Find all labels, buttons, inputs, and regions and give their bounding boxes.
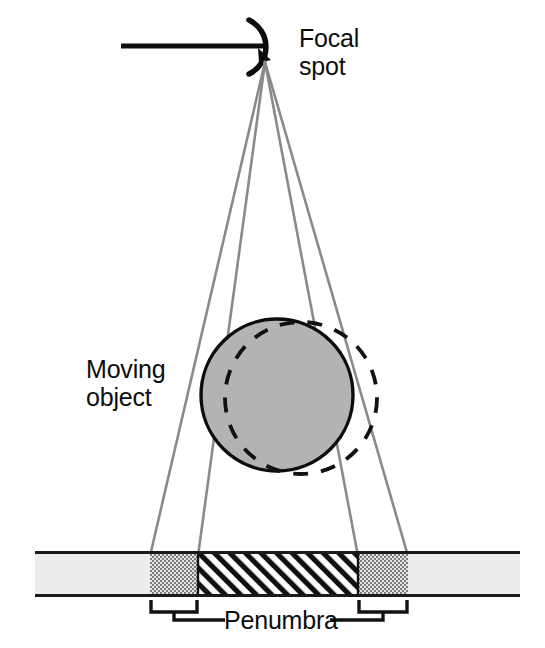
- focal-spot-label: Focal spot: [299, 24, 359, 80]
- ray-bundle: [150, 62, 408, 556]
- penumbra-label: Penumbra: [224, 606, 338, 634]
- bracket-left: [151, 600, 197, 612]
- ray-outer-right: [265, 62, 408, 556]
- umbra-region: [198, 552, 358, 596]
- penumbra-diagram: [0, 0, 545, 648]
- bracket-right: [359, 600, 407, 612]
- moving-object-group: [201, 319, 377, 474]
- focal-spot-source: [121, 20, 271, 74]
- moving-object-label: Moving object: [86, 355, 165, 411]
- figure-canvas: Focal spot Moving object Penumbra: [0, 0, 545, 648]
- ray-inner-right: [265, 62, 358, 556]
- penumbra-region-right: [358, 552, 408, 596]
- penumbra-region-left: [150, 552, 198, 596]
- detector-bar: [35, 552, 520, 596]
- object-solid-circle: [201, 319, 353, 471]
